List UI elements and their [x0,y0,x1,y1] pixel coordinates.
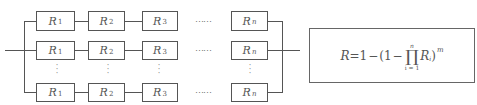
connector [75,21,88,22]
block-r3-row3: R3 [142,83,178,102]
reliability-formula: R = 1 − ( 1 − n ∏ i = 1 Ri )m [310,29,474,82]
left-rail [24,21,25,93]
connector [268,92,282,93]
block-r1-row3: R1 [36,83,75,102]
connector [24,21,36,22]
connector [75,50,88,51]
output-line [282,50,300,51]
connector [24,50,36,51]
vertical-ellipsis: ··· [106,64,110,76]
right-rail [282,21,283,93]
vertical-ellipsis: ··· [157,64,161,76]
connector [125,92,142,93]
block-rn-row3: Rn [231,83,268,102]
block-r2-row1: R2 [88,11,125,31]
connector [268,50,282,51]
horizontal-ellipsis: …… [195,43,211,53]
horizontal-ellipsis: …… [195,85,211,95]
vertical-ellipsis: ··· [55,64,59,76]
reliability-diagram: R1 R2 R3 …… Rn R1 R2 R3 …… Rn ··· ··· ··… [0,0,477,105]
connector [125,21,142,22]
connector [24,92,36,93]
connector [268,21,282,22]
vertical-ellipsis: ··· [248,64,252,76]
connector [125,50,142,51]
block-rn-row2: Rn [231,41,268,60]
block-rn-row1: Rn [231,11,268,31]
block-r2-row3: R2 [88,83,125,102]
horizontal-ellipsis: …… [195,14,211,24]
input-line [5,50,24,51]
block-r3-row1: R3 [142,11,178,31]
block-r2-row2: R2 [88,41,125,60]
block-r3-row2: R3 [142,41,178,60]
connector [75,92,88,93]
formula-box: R = 1 − ( 1 − n ∏ i = 1 Ri )m [309,28,475,83]
block-r1-row2: R1 [36,41,75,60]
block-r1-row1: R1 [36,11,75,31]
product-operator: n ∏ i = 1 [405,42,420,71]
